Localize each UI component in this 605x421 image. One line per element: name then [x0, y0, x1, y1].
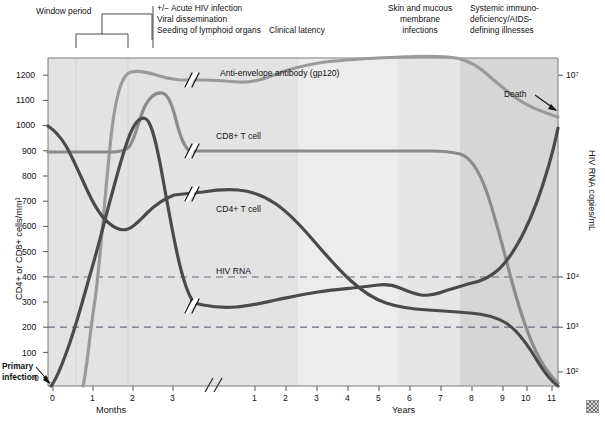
annotation-skin-mucous-line2: membrane [379, 14, 461, 25]
annotation-systemic-line1: Systemic immuno- [470, 3, 539, 14]
y-axis-label-left: CD4+ or CD8+ cells/mm³ [14, 197, 24, 300]
annotation-acute-line1: +/− Acute HIV infection [157, 3, 242, 14]
annotation-skin-mucous-line1: Skin and mucous [379, 3, 461, 14]
x-tick-year-9: 9 [500, 393, 505, 403]
y-tick-right-10e2: 10² [566, 366, 578, 376]
y-tick-100: 100 [22, 348, 36, 358]
y-tick-300: 300 [22, 297, 36, 307]
y-tick-400: 400 [22, 272, 36, 282]
annotation-systemic-line3: defining illnesses [470, 25, 534, 36]
checker-icon [586, 400, 599, 413]
annotation-primary-infection-line1: Primary [2, 361, 33, 372]
x-tick-year-4: 4 [345, 393, 350, 403]
hiv-progression-figure: Window period +/− Acute HIV infection Vi… [0, 0, 605, 421]
x-tick-year-11: 11 [547, 393, 556, 403]
x-tick-year-8: 8 [469, 393, 474, 403]
x-tick-year-10: 10 [521, 393, 531, 403]
x-tick-year-2: 2 [283, 393, 288, 403]
annotation-skin-mucous-line3: infections [379, 25, 461, 36]
x-tick-year-6: 6 [407, 393, 412, 403]
y-tick-right-10e3: 10³ [566, 321, 578, 331]
x-axis-ticks-months [53, 386, 173, 391]
y-tick-right-10e7: 10⁷ [566, 70, 579, 80]
y-tick-200: 200 [22, 322, 36, 332]
y-tick-right-10e4: 10⁴ [566, 271, 579, 281]
x-tick-month-3: 3 [170, 393, 175, 403]
y-tick-700: 700 [22, 196, 36, 206]
x-axis-ticks-years [255, 386, 552, 391]
y-tick-1000: 1000 [16, 120, 35, 130]
x-axis-label-months: Months [96, 405, 126, 415]
curve-label-cd4-t-cell: CD4+ T cell [216, 204, 261, 214]
annotation-clinical-latency: Clinical latency [269, 25, 325, 36]
chart-canvas [0, 0, 605, 421]
y-axis-ticks-left [43, 75, 48, 377]
y-axis-label-right: HIV RNA copies/mL [587, 150, 597, 231]
y-tick-1100: 1100 [16, 95, 34, 105]
annotation-death: Death [504, 89, 526, 100]
x-tick-month-1: 1 [90, 393, 95, 403]
y-tick-600: 600 [22, 221, 36, 231]
y-tick-500: 500 [22, 247, 36, 257]
x-axis-label-years: Years [392, 405, 415, 415]
x-tick-year-5: 5 [376, 393, 381, 403]
curve-label-anti-envelope-antibody: Anti-envelope antibody (gp120) [220, 68, 339, 78]
annotation-window-period: Window period [36, 6, 91, 17]
y-axis-ticks-right [558, 75, 563, 372]
y-tick-1200: 1200 [16, 70, 35, 80]
annotation-acute-line2: Viral dissemination [157, 14, 227, 25]
y-tick-0: 0 [34, 373, 39, 383]
annotation-acute-line3: Seeding of lymphoid organs [157, 25, 261, 36]
x-tick-year-7: 7 [438, 393, 443, 403]
curve-label-hiv-rna: HIV RNA [216, 266, 251, 276]
x-tick-year-1: 1 [252, 393, 257, 403]
x-tick-month-0: 0 [50, 393, 55, 403]
phase-bands [48, 58, 558, 386]
annotation-systemic-line2: deficiency/AIDS- [470, 14, 532, 25]
y-tick-800: 800 [22, 171, 36, 181]
x-tick-year-3: 3 [314, 393, 319, 403]
annotation-primary-infection-line2: infection [2, 372, 37, 383]
x-tick-month-2: 2 [130, 393, 135, 403]
y-tick-900: 900 [22, 146, 36, 156]
curve-label-cd8-t-cell: CD8+ T cell [216, 131, 261, 141]
